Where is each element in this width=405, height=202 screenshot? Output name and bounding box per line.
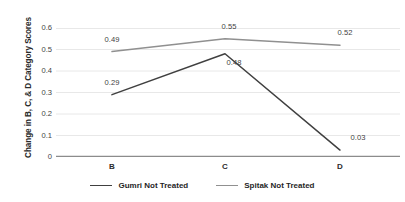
line-chart: Change in B, C, & D Category Scores 0.6 … [0,0,405,202]
legend-label: Spitak Not Treated [244,181,314,190]
legend-line-icon [216,185,238,186]
x-tick-label-b: B [92,162,132,171]
y-tick-label: 0.1 [26,132,52,140]
y-tick-label: 0.4 [26,67,52,75]
x-tick-label-c: C [205,162,245,171]
data-label: 0.49 [97,35,127,44]
data-label: 0.03 [343,133,373,142]
y-tick-label: 0.3 [26,89,52,97]
plot-area: 0.49 0.55 0.52 0.29 0.48 0.03 [56,28,400,157]
y-tick-label: 0 [26,153,52,161]
chart-legend: Gumri Not Treated Spitak Not Treated [0,181,405,190]
legend-label: Gumri Not Treated [118,181,188,190]
y-tick-label: 0.6 [26,24,52,32]
legend-item-spitak: Spitak Not Treated [216,181,314,190]
y-axis-tick-labels: 0.6 0.5 0.4 0.3 0.2 0.1 0 [24,0,52,202]
data-label: 0.48 [219,58,249,67]
legend-item-gumri: Gumri Not Treated [90,181,188,190]
x-tick-label-d: D [320,162,360,171]
data-label: 0.52 [330,28,360,37]
data-label: 0.29 [97,78,127,87]
data-label: 0.55 [214,22,244,31]
legend-line-icon [90,185,112,186]
y-tick-label: 0.2 [26,110,52,118]
y-tick-label: 0.5 [26,46,52,54]
